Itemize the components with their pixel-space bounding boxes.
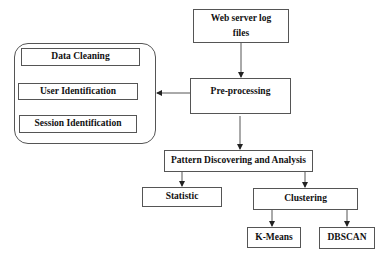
node-statistic: Statistic [142,187,222,207]
node-data-cleaning-label: Data Cleaning [51,49,109,64]
node-kmeans: K-Means [247,227,301,248]
node-web-server-logs-line2: files [233,26,249,41]
node-pattern-discovery-label: Pattern Discovering and Analysis [171,153,306,168]
node-data-cleaning: Data Cleaning [21,48,140,66]
node-dbscan-label: DBSCAN [327,230,366,245]
node-statistic-label: Statistic [166,189,199,204]
node-user-identification: User Identification [18,83,138,100]
node-session-identification: Session Identification [19,115,137,133]
node-session-identification-label: Session Identification [35,116,122,131]
node-kmeans-label: K-Means [255,230,292,245]
node-preprocessing: Pre-processing [190,78,291,114]
node-web-server-logs: Web server log files [193,9,289,43]
node-preprocessing-label: Pre-processing [211,84,271,99]
node-dbscan: DBSCAN [319,227,375,249]
node-clustering-label: Clustering [284,191,327,206]
node-user-identification-label: User Identification [40,84,116,99]
node-pattern-discovery: Pattern Discovering and Analysis [164,150,313,172]
node-web-server-logs-line1: Web server log [211,11,272,26]
node-clustering: Clustering [253,188,358,210]
